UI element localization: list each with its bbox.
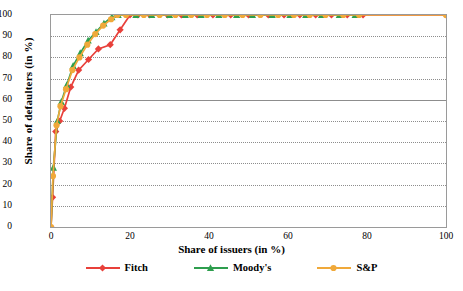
data-point bbox=[157, 15, 163, 18]
data-point bbox=[108, 16, 114, 22]
data-point bbox=[57, 103, 63, 109]
y-tick-label: 10 bbox=[0, 201, 12, 210]
x-tick-label: 60 bbox=[273, 231, 303, 241]
data-point bbox=[207, 264, 214, 271]
legend-marker-icon bbox=[317, 263, 351, 273]
data-point bbox=[331, 264, 337, 270]
data-point bbox=[275, 15, 281, 18]
data-series-layer bbox=[51, 15, 446, 227]
data-point bbox=[69, 67, 75, 73]
legend-label: S&P bbox=[356, 262, 377, 273]
data-point bbox=[98, 264, 105, 271]
data-point bbox=[76, 54, 82, 60]
y-tick-label: 60 bbox=[0, 95, 12, 104]
chart-container: Share of defaulters (in %) Share of issu… bbox=[0, 0, 463, 291]
legend-label: Fitch bbox=[125, 262, 148, 273]
x-tick-label: 40 bbox=[194, 231, 224, 241]
series-fitch bbox=[51, 15, 446, 227]
data-point bbox=[63, 86, 69, 92]
x-tick-label: 20 bbox=[115, 231, 145, 241]
y-tick-label: 80 bbox=[0, 52, 12, 61]
plot-area bbox=[50, 14, 447, 228]
legend-marker-icon bbox=[194, 263, 228, 273]
y-tick-label: 90 bbox=[0, 31, 12, 40]
data-point bbox=[222, 15, 228, 18]
y-tick-label: 50 bbox=[0, 116, 12, 125]
data-point bbox=[239, 15, 245, 18]
data-point bbox=[443, 15, 446, 18]
y-tick-label: 20 bbox=[0, 180, 12, 189]
data-point bbox=[51, 173, 56, 179]
data-point bbox=[188, 15, 194, 18]
data-point bbox=[84, 42, 90, 48]
data-point bbox=[51, 224, 54, 227]
y-tick-label: 70 bbox=[0, 74, 12, 83]
y-tick-label: 30 bbox=[0, 158, 12, 167]
x-tick-label: 0 bbox=[36, 231, 66, 241]
legend-item-sp[interactable]: S&P bbox=[317, 262, 377, 273]
data-point bbox=[53, 122, 59, 128]
x-tick-label: 100 bbox=[431, 231, 461, 241]
data-point bbox=[257, 15, 263, 18]
data-point bbox=[100, 23, 106, 29]
y-tick-label: 0 bbox=[0, 222, 12, 231]
legend-item-moodys[interactable]: Moody's bbox=[194, 262, 272, 273]
data-point bbox=[141, 15, 147, 18]
data-point bbox=[92, 31, 98, 37]
x-axis-title: Share of issuers (in %) bbox=[0, 243, 463, 255]
data-point bbox=[204, 15, 210, 18]
legend-item-fitch[interactable]: Fitch bbox=[86, 262, 148, 273]
series-line bbox=[51, 15, 355, 227]
legend-marker-icon bbox=[86, 263, 120, 273]
y-tick-label: 100 bbox=[0, 10, 12, 19]
y-axis-title: Share of defaulters (in %) bbox=[22, 11, 34, 191]
legend-label: Moody's bbox=[233, 262, 272, 273]
x-tick-label: 80 bbox=[352, 231, 382, 241]
y-tick-label: 40 bbox=[0, 137, 12, 146]
chart-legend: FitchMoody'sS&P bbox=[0, 262, 463, 273]
data-point bbox=[172, 15, 178, 18]
